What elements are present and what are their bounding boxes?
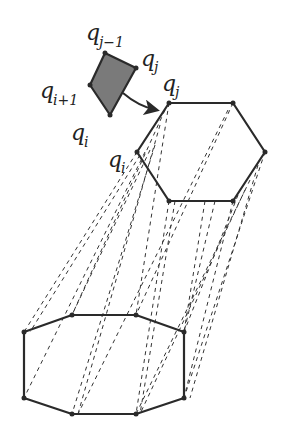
svg-text:q: q (162, 71, 176, 96)
correspondence-lines (24, 103, 265, 414)
svg-text:i+1: i+1 (53, 92, 78, 108)
label-q-i-plus-1: q i+1 (40, 78, 78, 108)
svg-text:j−1: j−1 (96, 34, 124, 50)
svg-text:q: q (141, 46, 155, 71)
svg-text:q: q (40, 78, 54, 103)
octagon (24, 315, 184, 414)
label-q-j-hex: q j (162, 71, 180, 100)
hexagon (137, 103, 265, 201)
quad-patch (90, 53, 136, 115)
hexagon-vertices (135, 101, 268, 204)
label-q-j-minus-1: q j−1 (86, 20, 124, 50)
arrow-icon (123, 93, 156, 110)
diagram-canvas: q j−1 q j q i+1 q i q j q i (0, 0, 286, 439)
label-q-i-small: q i (71, 120, 88, 150)
svg-text:i: i (121, 160, 125, 176)
svg-text:q: q (86, 20, 100, 45)
svg-text:i: i (84, 134, 88, 150)
svg-text:q: q (108, 147, 122, 172)
octagon-vertices (22, 313, 187, 417)
label-q-j-small: q j (141, 46, 159, 75)
svg-text:q: q (71, 120, 85, 145)
label-q-i-hex: q i (108, 147, 125, 176)
